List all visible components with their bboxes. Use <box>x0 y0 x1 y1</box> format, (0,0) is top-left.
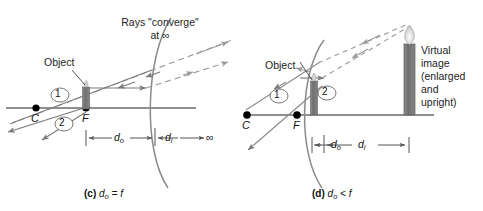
virtual-image-body-d <box>404 44 415 115</box>
point-c-label-c: C <box>31 112 39 124</box>
dim-di-sub-c: i <box>171 136 173 145</box>
caption-c: (c) do = f <box>84 188 123 201</box>
infinity-label-c: ∞ <box>206 131 214 143</box>
dim-label-di-d: di <box>358 138 366 152</box>
center-of-curvature-dot-c <box>32 104 39 111</box>
virtual-image-flame-d <box>405 25 415 45</box>
dim-di-sub-d: i <box>364 143 366 152</box>
object-body-c <box>83 87 90 109</box>
panel-c <box>6 18 232 188</box>
object-body-d <box>311 81 318 115</box>
ray2-arrow-upper-c <box>196 42 228 54</box>
ray1-label-d: 1 <box>274 89 280 100</box>
ray1-reflected-dashed-c <box>146 62 228 88</box>
point-f-label-d: F <box>293 119 300 131</box>
ray2-midarrow-d <box>352 49 368 58</box>
mirror-arc-c <box>150 18 171 188</box>
caption-text-c: do = f <box>99 188 123 199</box>
caption-d: (d) do < f <box>312 188 351 201</box>
optics-figure <box>0 0 483 211</box>
rays-converge-label-line2: at ∞ <box>112 29 208 42</box>
ray1-label-c: 1 <box>55 88 61 99</box>
dim-do-sub-d: o <box>337 143 341 152</box>
rays-converge-label-line1: Rays "converge" <box>112 16 208 29</box>
object-label-c: Object <box>44 56 74 68</box>
virtual-image-label-line3: (enlarged <box>421 70 465 83</box>
virtual-image-label-line2: image <box>421 57 450 70</box>
object-leader-line-c <box>72 70 85 85</box>
ray1-midarrow-d <box>362 35 380 44</box>
virtual-image-label-line1: Virtual <box>421 44 451 57</box>
dim-label-do-d: do <box>331 138 341 152</box>
caption-letter-d: (d) <box>312 188 325 199</box>
center-of-curvature-dot-d <box>243 111 251 119</box>
caption-letter-c: (c) <box>84 188 96 199</box>
virtual-image-label-line5: upright) <box>421 96 457 109</box>
object-flame-d <box>312 73 317 81</box>
ray2-reflected-dashed-d <box>322 26 410 78</box>
dim-do-sub-c: o <box>120 136 124 145</box>
panel-d <box>243 24 434 188</box>
ray2-backarrow-c <box>118 82 135 88</box>
ray2-label-d: 2 <box>322 86 328 97</box>
focal-point-dot-d <box>293 111 301 119</box>
dim-label-di-c: di <box>165 131 173 145</box>
object-label-d: Object <box>265 59 295 71</box>
ray2-label-c: 2 <box>59 117 65 128</box>
caption-text-d: do < f <box>328 188 352 199</box>
point-c-label-d: C <box>242 119 250 131</box>
point-f-label-c: F <box>82 112 89 124</box>
virtual-image-label-line4: and <box>421 83 439 96</box>
dim-label-do-c: do <box>114 131 124 145</box>
